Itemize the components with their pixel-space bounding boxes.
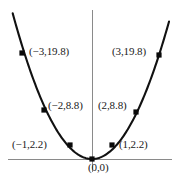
point-label: (2,8.8) (98, 100, 127, 111)
point-label: (0,0) (88, 162, 109, 173)
data-point-marker (133, 109, 138, 114)
parabola-figure: (−3,19.8)(−2,8.8)(−1,2.2)(0,0)(1,2.2)(2,… (0, 0, 177, 179)
plot-canvas (0, 0, 177, 179)
data-point-marker (67, 142, 72, 147)
data-point-marker (109, 142, 114, 147)
point-label: (−3,19.8) (29, 46, 69, 57)
data-point-marker (156, 52, 161, 57)
point-label: (−2,8.8) (48, 100, 83, 111)
point-label: (3,19.8) (112, 46, 146, 57)
data-point-marker (19, 50, 24, 55)
point-label: (−1,2.2) (12, 139, 47, 150)
data-point-marker (41, 107, 46, 112)
point-label: (1,2.2) (119, 139, 148, 150)
